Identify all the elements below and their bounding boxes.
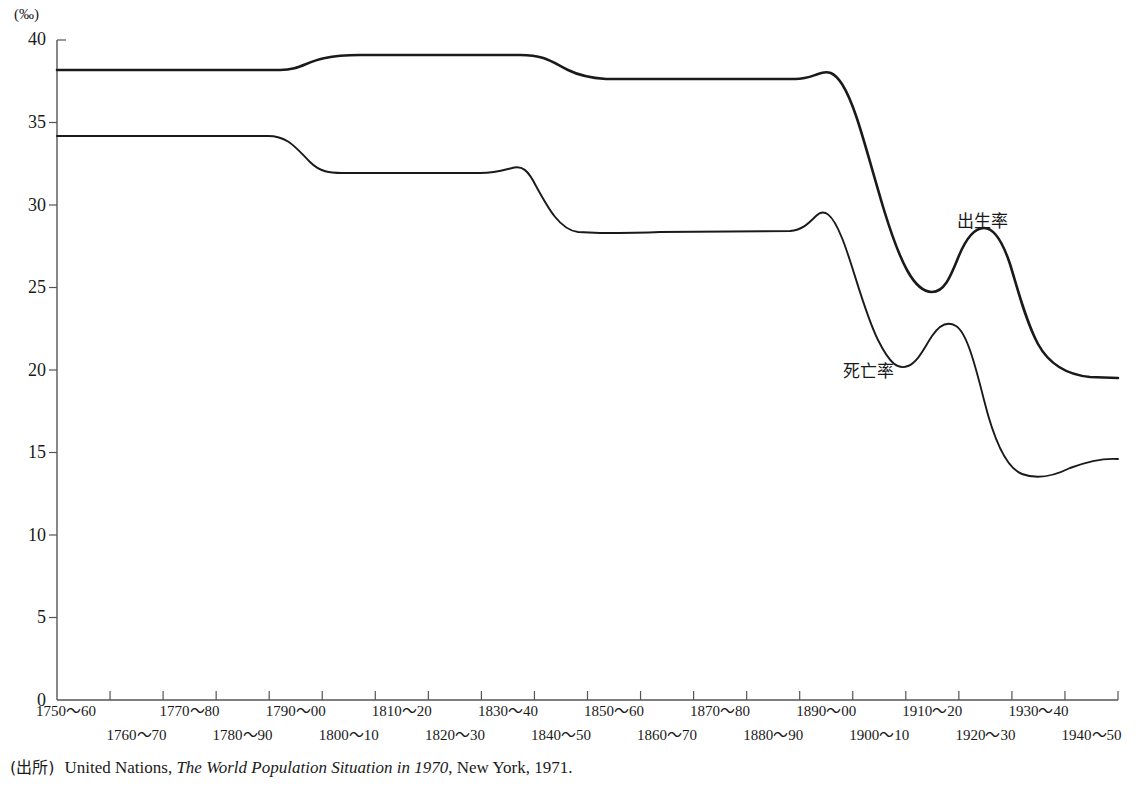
x-tick-label: 1870～80 <box>690 703 750 719</box>
x-tick-label: 1880～90 <box>743 727 803 743</box>
x-tick-label: 1790～00 <box>266 703 326 719</box>
y-tick-label: 10 <box>6 526 46 544</box>
source-prefix: (出所) <box>10 758 54 777</box>
y-tick-label: 40 <box>6 30 46 48</box>
series-annotation-birth-rate: 出生率 <box>957 212 1008 230</box>
y-tick-label: 15 <box>6 443 46 461</box>
y-tick-label: 25 <box>6 278 46 296</box>
chart-figure: (‰) <box>0 0 1141 787</box>
x-tick-label: 1850～60 <box>584 703 644 719</box>
x-tick-label: 1810～20 <box>372 703 432 719</box>
source-work-title: The World Population Situation in 1970 <box>176 758 448 777</box>
y-tick-label: 5 <box>6 608 46 626</box>
x-tick-label: 1840～50 <box>531 727 591 743</box>
x-tick-label: 1910～20 <box>902 703 962 719</box>
x-tick-label: 1930～40 <box>1008 703 1068 719</box>
y-tick-label: 30 <box>6 196 46 214</box>
series-line-death-rate <box>57 136 1118 477</box>
x-tick-label: 1820～30 <box>425 727 485 743</box>
x-tick-label: 1750～60 <box>36 703 96 719</box>
x-tick-label: 1860～70 <box>637 727 697 743</box>
x-tick-label: 1760～70 <box>107 727 167 743</box>
series-annotation-death-rate: 死亡率 <box>843 362 894 380</box>
x-tick-label: 1920～30 <box>955 727 1015 743</box>
x-tick-label: 1830～40 <box>478 703 538 719</box>
x-tick-label: 1800～10 <box>319 727 379 743</box>
plot-area <box>0 0 1141 787</box>
axis-lines <box>57 40 1118 700</box>
x-tick-label: 1900～10 <box>849 727 909 743</box>
x-tick-label: 1940～50 <box>1062 727 1122 743</box>
source-place-year: , New York, 1971. <box>448 758 572 777</box>
source-publisher: United Nations, <box>64 758 172 777</box>
y-axis-ticks <box>49 123 57 618</box>
source-note: (出所)United Nations, The World Population… <box>10 757 572 779</box>
x-axis-ticks <box>110 691 1065 700</box>
x-tick-label: 1890～00 <box>796 703 856 719</box>
x-tick-label: 1770～80 <box>160 703 220 719</box>
x-tick-label: 1780～90 <box>213 727 273 743</box>
y-tick-label: 20 <box>6 361 46 379</box>
y-tick-label: 35 <box>6 113 46 131</box>
